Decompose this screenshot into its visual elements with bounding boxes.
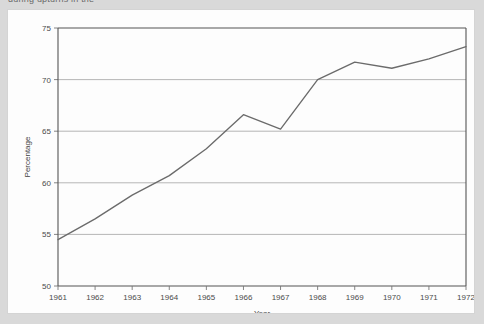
caption-text: during upturns in the bbox=[8, 0, 94, 4]
clipped-caption: during upturns in the bbox=[0, 0, 484, 10]
ytick-label-55: 55 bbox=[42, 230, 51, 239]
xtick-label-1968: 1968 bbox=[309, 293, 327, 302]
line-chart: 5055606570751961196219631964196519661967… bbox=[8, 10, 474, 313]
xtick-label-1967: 1967 bbox=[272, 293, 290, 302]
xtick-label-1963: 1963 bbox=[123, 293, 141, 302]
xtick-label-1961: 1961 bbox=[49, 293, 67, 302]
ytick-label-65: 65 bbox=[42, 127, 51, 136]
xtick-label-1969: 1969 bbox=[346, 293, 364, 302]
xtick-label-1970: 1970 bbox=[383, 293, 401, 302]
xtick-label-1971: 1971 bbox=[420, 293, 438, 302]
xtick-label-1964: 1964 bbox=[160, 293, 178, 302]
xtick-label-1965: 1965 bbox=[197, 293, 215, 302]
y-axis-title: Percentage bbox=[23, 136, 32, 177]
ytick-label-50: 50 bbox=[42, 282, 51, 291]
ytick-label-60: 60 bbox=[42, 179, 51, 188]
ytick-label-70: 70 bbox=[42, 76, 51, 85]
ytick-label-75: 75 bbox=[42, 24, 51, 33]
xtick-label-1972: 1972 bbox=[457, 293, 474, 302]
data-series-percentage bbox=[58, 47, 466, 240]
x-axis-title: Year bbox=[254, 309, 271, 313]
figure-panel: 5055606570751961196219631964196519661967… bbox=[8, 10, 474, 313]
xtick-label-1966: 1966 bbox=[235, 293, 253, 302]
xtick-label-1962: 1962 bbox=[86, 293, 104, 302]
screenshot-root: during upturns in the 505560657075196119… bbox=[0, 0, 484, 324]
chart-svg: 5055606570751961196219631964196519661967… bbox=[8, 10, 474, 313]
